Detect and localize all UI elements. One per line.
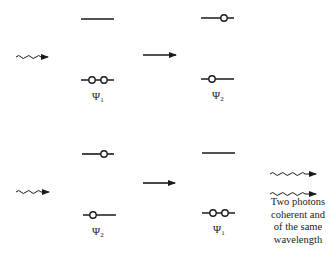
caption-line: wavelength <box>263 234 332 247</box>
top-after-label: Ψ2 <box>212 90 224 105</box>
incoming-photon-bottom-icon <box>16 191 41 194</box>
electron-icon <box>101 77 107 83</box>
bottom-after-label: Ψ1 <box>213 224 225 239</box>
electron-icon <box>221 15 227 21</box>
top-before-label: Ψ1 <box>92 91 104 106</box>
outgoing-photon-1-icon <box>270 173 305 176</box>
caption-line: Two photons <box>263 196 332 209</box>
electron-icon <box>222 210 228 216</box>
diagram-canvas: Ψ1 Ψ2 Ψ2 Ψ1 Two photons coherent and of … <box>0 0 332 264</box>
caption-line: of the same <box>263 221 332 234</box>
electron-icon <box>101 151 107 157</box>
electron-icon <box>210 210 216 216</box>
incoming-photon-top-icon <box>16 56 41 59</box>
electron-icon <box>209 76 215 82</box>
electron-icon <box>89 77 95 83</box>
caption-line: coherent and <box>263 209 332 222</box>
output-caption: Two photons coherent and of the same wav… <box>263 196 332 246</box>
bottom-before-label: Ψ2 <box>92 226 104 241</box>
electron-icon <box>90 212 96 218</box>
